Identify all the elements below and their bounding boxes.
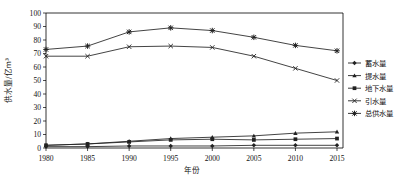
- data-point: [335, 143, 339, 147]
- x-tick-label: 1985: [80, 154, 95, 163]
- legend-marker-diamond-icon: [352, 61, 356, 65]
- legend-label: 引水量: [365, 97, 387, 106]
- data-point: [127, 140, 131, 144]
- x-tick-label: 1980: [38, 154, 53, 163]
- legend-item-提水量[interactable]: 提水量: [348, 72, 387, 81]
- series-line: [46, 46, 337, 80]
- legend-label: 地下水量: [365, 84, 394, 93]
- series-line: [46, 132, 337, 146]
- y-tick-label: 30: [33, 103, 41, 112]
- x-tick-label: 2005: [246, 154, 261, 163]
- y-tick-label: 90: [33, 22, 41, 31]
- x-tick-label: 1995: [163, 154, 178, 163]
- legend-marker-square-icon: [353, 86, 357, 90]
- y-tick-label: 10: [33, 130, 41, 139]
- y-tick-label: 40: [33, 90, 41, 99]
- legend-label: 蓄水量: [365, 59, 387, 68]
- y-axis-title: 供水量/亿m³: [3, 58, 13, 103]
- y-tick-label: 50: [33, 76, 41, 85]
- data-point: [293, 143, 297, 147]
- legend-label: 总供水量: [365, 109, 394, 118]
- x-tick-label: 2015: [329, 154, 344, 163]
- data-point: [169, 138, 173, 142]
- legend-item-引水量[interactable]: 引水量: [348, 97, 387, 106]
- data-point: [252, 138, 256, 142]
- x-tick-label: 2010: [288, 154, 303, 163]
- data-point: [335, 137, 339, 141]
- chart-container: 0102030405060708090100198019851990199520…: [0, 0, 413, 189]
- x-tick-label: 1990: [122, 154, 137, 163]
- y-tick-label: 100: [30, 9, 42, 18]
- data-point: [169, 144, 173, 148]
- y-axis-title-group: 供水量/亿m³: [3, 58, 13, 103]
- data-point: [86, 142, 90, 146]
- legend-item-地下水量[interactable]: 地下水量: [348, 84, 394, 93]
- y-tick-label: 70: [33, 49, 41, 58]
- data-point: [252, 143, 256, 147]
- legend-item-总供水量[interactable]: 总供水量: [348, 109, 394, 118]
- data-point: [44, 143, 48, 147]
- series-引水量: [44, 44, 339, 83]
- x-axis-title: 年份: [184, 165, 200, 175]
- legend-item-蓄水量[interactable]: 蓄水量: [348, 59, 387, 68]
- data-point: [210, 144, 214, 148]
- x-tick-label: 2000: [205, 154, 220, 163]
- y-tick-label: 80: [33, 36, 41, 45]
- y-tick-label: 60: [33, 63, 41, 72]
- data-point: [127, 144, 131, 148]
- y-tick-label: 0: [37, 144, 41, 153]
- line-chart: 0102030405060708090100198019851990199520…: [0, 0, 413, 189]
- legend-label: 提水量: [365, 72, 387, 81]
- data-point: [210, 137, 214, 141]
- data-point: [294, 137, 298, 141]
- series-总供水量: [43, 25, 340, 53]
- y-tick-label: 20: [33, 117, 41, 126]
- series-line: [46, 139, 337, 146]
